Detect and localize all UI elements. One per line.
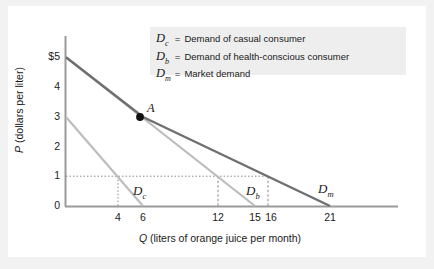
legend-symbol: Dm bbox=[156, 66, 175, 84]
label-point-a: A bbox=[147, 101, 155, 116]
y-axis-title-rest: (dollars per liter) bbox=[13, 67, 25, 146]
curve-dm-symbol: D bbox=[318, 181, 327, 196]
legend-description: Demand of health-conscious consumer bbox=[184, 49, 349, 67]
marker-point-a bbox=[136, 113, 144, 121]
curve-demand-casual bbox=[66, 117, 143, 206]
x-tick-16: 16 bbox=[259, 211, 283, 223]
legend-symbol: Dc bbox=[156, 31, 175, 49]
x-tick-21: 21 bbox=[318, 211, 342, 223]
y-axis-title-symbol: P bbox=[13, 146, 25, 153]
x-axis-title-symbol: Q bbox=[139, 232, 147, 244]
y-tick-1: 1 bbox=[30, 169, 60, 181]
legend-symbol: Db bbox=[156, 49, 175, 67]
y-tick-3: 3 bbox=[30, 110, 60, 122]
x-axis-title-rest: (liters of orange juice per month) bbox=[147, 232, 301, 244]
x-tick-6: 6 bbox=[131, 211, 155, 223]
y-tick-4: 4 bbox=[30, 80, 60, 92]
label-curve-dc: Dc bbox=[133, 183, 146, 201]
y-tick-0: 0 bbox=[30, 199, 60, 211]
y-axis-title: P (dollars per liter) bbox=[13, 55, 25, 165]
legend-row: Dm=Market demand bbox=[156, 66, 349, 84]
legend-row: Dc=Demand of casual consumer bbox=[156, 31, 349, 49]
curve-dc-symbol: D bbox=[133, 183, 142, 198]
figure-frame: $5 4 3 2 1 0 4 6 12 15 16 21 P (dollars … bbox=[0, 0, 434, 269]
point-a-text: A bbox=[147, 101, 155, 115]
legend-description: Market demand bbox=[184, 66, 349, 84]
curve-db-symbol: D bbox=[246, 183, 255, 198]
legend-equals: = bbox=[175, 66, 185, 84]
legend-equals: = bbox=[175, 49, 185, 67]
curve-dc-subscript: c bbox=[142, 191, 146, 201]
curve-db-subscript: b bbox=[255, 191, 259, 201]
label-curve-db: Db bbox=[246, 183, 260, 201]
label-curve-dm: Dm bbox=[318, 181, 334, 199]
legend-box: Dc=Demand of casual consumerDb=Demand of… bbox=[150, 27, 406, 75]
x-tick-12: 12 bbox=[206, 211, 230, 223]
y-tick-5: $5 bbox=[30, 50, 60, 62]
legend-row: Db=Demand of health-conscious consumer bbox=[156, 49, 349, 67]
legend-equals: = bbox=[175, 31, 185, 49]
y-tick-2: 2 bbox=[30, 140, 60, 152]
x-tick-4: 4 bbox=[106, 211, 130, 223]
x-axis-title: Q (liters of orange juice per month) bbox=[110, 232, 330, 244]
curve-dm-subscript: m bbox=[327, 189, 333, 199]
legend-description: Demand of casual consumer bbox=[184, 31, 349, 49]
